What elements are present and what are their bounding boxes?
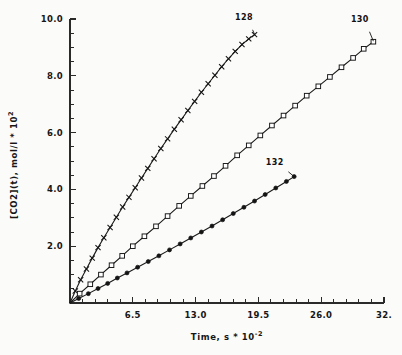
x-axis-title-text: Time, s * 10 xyxy=(191,332,255,342)
marker-130 xyxy=(142,234,147,239)
marker-132 xyxy=(125,271,129,275)
series-130 xyxy=(70,39,376,303)
marker-132 xyxy=(221,218,225,222)
chart-figure: 6.513.019.526.032. 2.04.06.08.010.0 1281… xyxy=(0,0,402,355)
marker-130 xyxy=(281,113,286,118)
series-128 xyxy=(70,32,257,303)
marker-130 xyxy=(258,133,263,138)
marker-130 xyxy=(177,204,182,209)
fit-line-130 xyxy=(70,42,373,303)
marker-130 xyxy=(316,84,321,89)
data-series-group xyxy=(70,32,376,303)
marker-130 xyxy=(200,184,205,189)
marker-128 xyxy=(219,64,224,69)
x-tick-label: 19.5 xyxy=(247,310,269,320)
marker-132 xyxy=(86,292,90,296)
y-axis-tick-labels: 2.04.06.08.010.0 xyxy=(41,14,63,251)
series-label-128: 128 xyxy=(235,13,253,22)
marker-130 xyxy=(304,93,309,98)
marker-128 xyxy=(165,136,170,141)
y-tick-label: 4.0 xyxy=(47,184,63,194)
x-axis-title: Time, s * 10-2 xyxy=(191,330,263,342)
marker-132 xyxy=(157,254,161,258)
marker-128 xyxy=(246,36,251,41)
fit-line-132 xyxy=(70,177,294,303)
series-132 xyxy=(70,175,296,303)
y-tick-label: 8.0 xyxy=(47,71,63,81)
series-label-132: 132 xyxy=(266,158,284,167)
marker-128 xyxy=(84,266,89,271)
marker-130 xyxy=(120,254,125,259)
series-leader-132 xyxy=(288,172,294,177)
marker-132 xyxy=(231,212,235,216)
marker-128 xyxy=(206,81,211,86)
y-axis-ticks xyxy=(70,19,76,289)
marker-128 xyxy=(145,166,150,171)
marker-130 xyxy=(99,272,104,277)
marker-128 xyxy=(90,256,95,261)
series-label-130: 130 xyxy=(351,15,369,24)
marker-130 xyxy=(246,143,251,148)
x-tick-label: 26.0 xyxy=(310,310,332,320)
marker-130 xyxy=(351,56,356,61)
marker-132 xyxy=(189,236,193,240)
marker-128 xyxy=(107,225,112,230)
marker-128 xyxy=(133,185,138,190)
marker-132 xyxy=(106,281,110,285)
marker-130 xyxy=(361,47,366,52)
marker-128 xyxy=(239,42,244,47)
marker-130 xyxy=(212,174,217,179)
marker-128 xyxy=(212,73,217,78)
marker-132 xyxy=(199,230,203,234)
y-tick-label: 10.0 xyxy=(41,14,63,24)
marker-132 xyxy=(77,296,81,300)
y-axis-title-text: [CO2](t), mol/l * 10 xyxy=(9,116,19,219)
marker-128 xyxy=(233,49,238,54)
y-axis-title: [CO2](t), mol/l * 102 xyxy=(7,111,19,219)
marker-128 xyxy=(226,56,231,61)
marker-130 xyxy=(339,65,344,70)
marker-130 xyxy=(293,103,298,108)
marker-130 xyxy=(165,214,170,219)
marker-128 xyxy=(192,99,197,104)
marker-128 xyxy=(120,204,125,209)
marker-128 xyxy=(179,117,184,122)
marker-130 xyxy=(188,194,193,199)
marker-132 xyxy=(210,224,214,228)
marker-128 xyxy=(199,90,204,95)
marker-130 xyxy=(77,291,82,296)
marker-132 xyxy=(253,199,257,203)
marker-132 xyxy=(168,248,172,252)
marker-130 xyxy=(235,153,240,158)
y-tick-label: 6.0 xyxy=(47,128,63,138)
marker-128 xyxy=(139,175,144,180)
marker-130 xyxy=(88,282,93,287)
marker-128 xyxy=(95,245,100,250)
x-axis-tick-labels: 6.513.019.526.032. xyxy=(125,310,392,320)
chart-canvas: 6.513.019.526.032. 2.04.06.08.010.0 1281… xyxy=(0,0,402,355)
x-axis-title-exponent: -2 xyxy=(255,330,263,338)
fit-line-128 xyxy=(70,35,255,303)
marker-128 xyxy=(126,195,131,200)
marker-130 xyxy=(131,244,136,249)
marker-132 xyxy=(263,193,267,197)
svg-text:Time, s * 10-2: Time, s * 10-2 xyxy=(191,330,263,342)
marker-128 xyxy=(185,108,190,113)
marker-128 xyxy=(78,277,83,282)
marker-128 xyxy=(158,146,163,151)
x-axis-ticks xyxy=(83,297,384,303)
marker-132 xyxy=(96,287,100,291)
marker-132 xyxy=(284,179,288,183)
x-tick-label: 6.5 xyxy=(125,310,141,320)
marker-130 xyxy=(109,263,114,268)
marker-128 xyxy=(101,235,106,240)
x-tick-label: 13.0 xyxy=(185,310,207,320)
y-tick-label: 2.0 xyxy=(47,241,63,251)
marker-128 xyxy=(172,127,177,132)
marker-132 xyxy=(115,276,119,280)
marker-130 xyxy=(223,164,228,169)
marker-132 xyxy=(242,205,246,209)
marker-130 xyxy=(154,224,159,229)
marker-132 xyxy=(136,265,140,269)
marker-128 xyxy=(114,215,119,220)
